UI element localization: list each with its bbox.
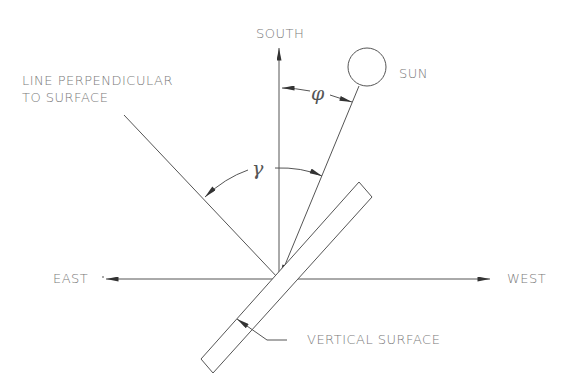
perpendicular-line	[124, 115, 279, 279]
west-label: WEST	[507, 271, 546, 287]
vertical-surface-label: VERTICAL SURFACE	[307, 332, 440, 348]
gamma-arc-right	[275, 168, 322, 176]
sun-angle-diagram	[0, 0, 570, 392]
sun-label: SUN	[399, 66, 428, 82]
phi-symbol: φ	[311, 83, 324, 103]
phi-arc-left	[282, 88, 310, 91]
east-label: EAST	[53, 271, 88, 287]
south-label: SOUTH	[256, 26, 304, 42]
gamma-symbol: γ	[252, 158, 263, 178]
perpendicular-label-line2: TO SURFACE	[22, 90, 108, 106]
gamma-arc-left	[205, 170, 248, 197]
phi-arc-right	[330, 95, 352, 102]
perpendicular-label-line1: LINE PERPENDICULAR	[22, 73, 173, 89]
sun-circle	[348, 48, 386, 86]
